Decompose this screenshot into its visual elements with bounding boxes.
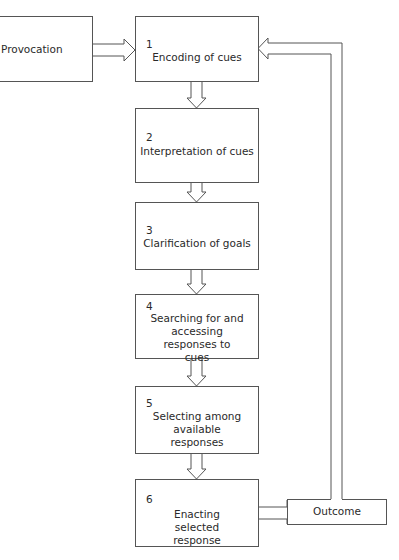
outcome-top-edge: [0, 0, 399, 560]
